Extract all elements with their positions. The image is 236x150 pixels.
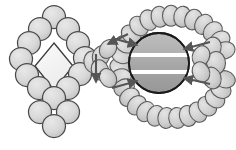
figure-root: Schematic assembly diagram Diamond-shape… <box>0 0 236 150</box>
core-band <box>127 70 191 74</box>
core-band <box>127 53 191 57</box>
central-core-sphere <box>127 33 191 93</box>
assembly-diagram-canvas <box>0 0 236 150</box>
subunit-bead <box>43 115 66 138</box>
